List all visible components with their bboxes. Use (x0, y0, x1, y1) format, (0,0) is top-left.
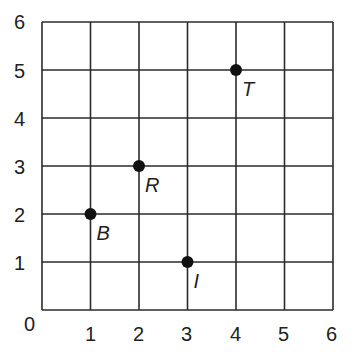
y-tick-6: 6 (14, 11, 25, 33)
x-tick-3: 3 (181, 323, 192, 345)
y-tick-1: 1 (14, 252, 25, 274)
y-tick-5: 5 (14, 60, 25, 82)
x-axis-ticks: 1 2 3 4 5 6 (85, 323, 337, 345)
point-label: B (97, 222, 110, 244)
point-marker (85, 208, 97, 220)
x-tick-1: 1 (85, 323, 96, 345)
y-tick-2: 2 (14, 204, 25, 226)
point-marker (182, 256, 194, 268)
point-marker (133, 160, 145, 172)
coordinate-grid: 6 5 4 3 2 1 0 1 2 3 4 5 6 BRIT (0, 0, 353, 362)
y-tick-3: 3 (14, 156, 25, 178)
x-tick-2: 2 (133, 323, 144, 345)
y-axis-ticks: 6 5 4 3 2 1 (14, 11, 25, 274)
y-tick-4: 4 (14, 108, 25, 130)
origin-label: 0 (24, 313, 35, 335)
point-label: I (194, 270, 200, 292)
point-marker (230, 64, 242, 76)
data-points: BRIT (85, 64, 257, 292)
point-label: T (242, 78, 256, 100)
x-tick-4: 4 (230, 323, 241, 345)
x-tick-5: 5 (278, 323, 289, 345)
x-tick-6: 6 (326, 323, 337, 345)
point-label: R (145, 174, 159, 196)
